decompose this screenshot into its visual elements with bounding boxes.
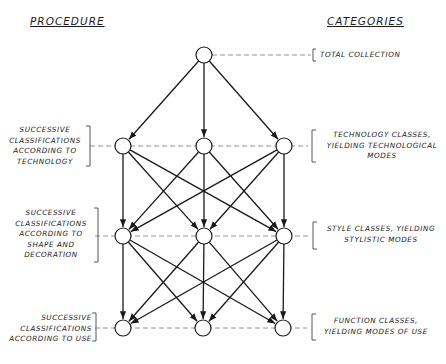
class-node-technology bbox=[115, 138, 131, 154]
procedure-label-technology: SUCCESSIVE CLASSIFICATIONS ACCORDING TO … bbox=[2, 125, 88, 167]
category-label-total: TOTAL COLLECTION bbox=[320, 50, 400, 61]
class-node-technology bbox=[276, 138, 292, 154]
procedure-label-shape-decoration: SUCCESSIVE CLASSIFICATIONS ACCORDING TO … bbox=[8, 208, 94, 261]
class-node-use bbox=[115, 320, 131, 336]
category-label-technology: TECHNOLOGY CLASSES, YIELDING TECHNOLOGIC… bbox=[318, 130, 446, 162]
classification-arrow bbox=[209, 61, 278, 139]
class-node-shape-decoration bbox=[115, 228, 131, 244]
class-node-use bbox=[195, 320, 211, 336]
class-node-technology bbox=[196, 138, 212, 154]
class-node-shape-decoration bbox=[276, 228, 292, 244]
classification-arrow bbox=[129, 61, 199, 139]
class-node-total-collection bbox=[196, 47, 212, 63]
classification-arrows bbox=[123, 61, 284, 324]
category-label-function: FUNCTION CLASSES, YIELDING MODES OF USE bbox=[318, 316, 434, 337]
category-label-style: STYLE CLASSES, YIELDING STYLISTIC MODES bbox=[320, 224, 442, 245]
classification-arrow bbox=[283, 244, 284, 319]
class-node-shape-decoration bbox=[196, 228, 212, 244]
class-node-use bbox=[275, 320, 291, 336]
category-brackets bbox=[312, 49, 317, 340]
procedure-label-use: SUCCESSIVE CLASSIFICATIONS ACCORDING TO … bbox=[2, 313, 92, 345]
